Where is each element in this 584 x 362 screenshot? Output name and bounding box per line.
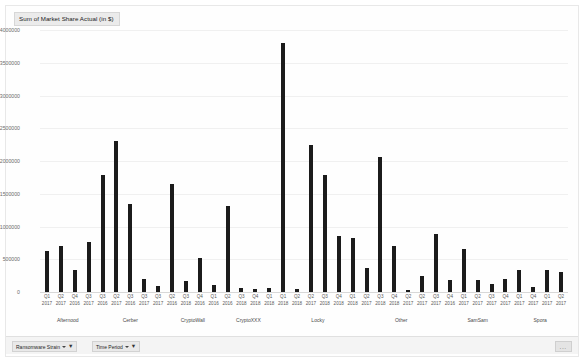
filter-strain-label: Ransomware Strain (16, 342, 60, 352)
bar[interactable] (295, 289, 299, 292)
funnel-icon[interactable]: ▼ (68, 344, 73, 350)
bar[interactable] (351, 238, 355, 292)
y-axis-tick-label: 3500000 (0, 60, 20, 66)
bar[interactable] (73, 270, 77, 292)
funnel-icon[interactable]: ▼ (131, 344, 136, 350)
bar[interactable] (517, 270, 521, 292)
filter-bar: Ransomware Strain ▼ Time Period ▼ ... (6, 336, 578, 354)
y-axis-tick-label: 1000000 (0, 224, 20, 230)
bar[interactable] (531, 287, 535, 292)
x-axis-tick-label: Q22017 (550, 294, 572, 307)
y-axis-tick-label: 500000 (0, 256, 20, 262)
filter-ransomware-strain[interactable]: Ransomware Strain ▼ (12, 341, 77, 352)
bar[interactable] (406, 290, 410, 292)
chart-title: Sum of Market Share Actual (in $) (14, 12, 120, 26)
bar[interactable] (309, 145, 313, 292)
bar[interactable] (392, 246, 396, 292)
bar[interactable] (559, 272, 563, 292)
filter-period-label: Time Period (96, 342, 123, 352)
bar[interactable] (45, 251, 49, 292)
group-label: Locky (288, 316, 348, 324)
y-axis-tick-label: 2500000 (0, 125, 20, 131)
y-axis-tick-label: 0 (0, 289, 20, 295)
bar[interactable] (198, 258, 202, 292)
bar[interactable] (462, 249, 466, 292)
bar[interactable] (128, 204, 132, 292)
bar[interactable] (323, 175, 327, 292)
bar[interactable] (184, 281, 188, 292)
bar[interactable] (378, 157, 382, 292)
y-axis-tick-label: 2000000 (0, 158, 20, 164)
bar[interactable] (545, 270, 549, 292)
gridline (40, 194, 568, 195)
gridline (40, 259, 568, 260)
chart-screenshot-root: Sum of Market Share Actual (in $) 400000… (0, 0, 584, 362)
bar[interactable] (212, 285, 216, 292)
bar[interactable] (114, 141, 118, 292)
bar[interactable] (253, 289, 257, 292)
group-label: SamSam (448, 316, 508, 324)
bar[interactable] (156, 286, 160, 292)
filter-time-period[interactable]: Time Period ▼ (92, 341, 140, 352)
group-label: Afternood (38, 316, 98, 324)
bar[interactable] (434, 234, 438, 292)
bar[interactable] (59, 246, 63, 292)
bar[interactable] (281, 43, 285, 292)
plot-area: 4000000350000030000002500000200000015000… (40, 30, 568, 292)
group-label: Other (371, 316, 431, 324)
gridline (40, 63, 568, 64)
y-axis-tick-label: 4000000 (0, 27, 20, 33)
bar[interactable] (337, 236, 341, 292)
bar[interactable] (101, 175, 105, 292)
bar[interactable] (87, 242, 91, 292)
chevron-down-icon[interactable] (125, 346, 129, 348)
overflow-menu-button[interactable]: ... (555, 341, 572, 352)
group-label: CryptoXXX (218, 316, 278, 324)
bar[interactable] (226, 206, 230, 292)
bar[interactable] (170, 184, 174, 292)
bar[interactable] (476, 280, 480, 292)
gridline (40, 292, 568, 293)
bar[interactable] (142, 279, 146, 292)
bar[interactable] (490, 284, 494, 293)
group-label: Spora (510, 316, 570, 324)
y-axis-tick-label: 1500000 (0, 191, 20, 197)
bar[interactable] (420, 276, 424, 292)
bar[interactable] (267, 288, 271, 292)
gridline (40, 96, 568, 97)
y-axis-tick-label: 3000000 (0, 93, 20, 99)
x-tick-year: 2017 (550, 301, 572, 308)
bar[interactable] (239, 288, 243, 292)
gridline (40, 227, 568, 228)
x-axis-tick-labels: Q12017Q22017Q42016Q32017Q32016Q22017Q320… (40, 294, 568, 316)
chevron-down-icon[interactable] (62, 346, 66, 348)
bar[interactable] (503, 279, 507, 292)
gridline (40, 30, 568, 31)
gridline (40, 161, 568, 162)
gridline (40, 128, 568, 129)
bar[interactable] (365, 268, 369, 292)
group-label: Cerber (100, 316, 160, 324)
x-axis-group-labels: AfternoodCerberCryptoWallCryptoXXXLockyO… (40, 316, 568, 328)
bar[interactable] (448, 280, 452, 292)
group-label: CryptoWall (163, 316, 223, 324)
